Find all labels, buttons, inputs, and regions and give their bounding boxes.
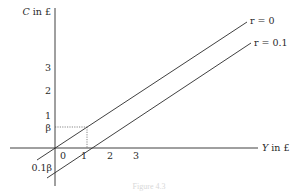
consumption-diagram: C in £ Y in £ 3 2 1 β 0 1 2 3 0.1β r = 0… <box>0 0 298 192</box>
line-r01 <box>47 43 251 178</box>
x-tick-3: 3 <box>133 150 139 161</box>
x-tick-1: 1 <box>81 150 87 161</box>
figure-caption: Figure 4.3 <box>133 182 166 191</box>
line-r0 <box>37 22 247 160</box>
x-tick-0: 0 <box>60 150 66 161</box>
x-tick-2: 2 <box>107 150 113 161</box>
y-tick-2: 2 <box>45 85 51 96</box>
line-r0-label: r = 0 <box>250 15 275 26</box>
beta-label: β <box>46 122 52 133</box>
intercept-label: 0.1β <box>31 162 52 173</box>
x-axis-label: Y in £ <box>262 142 290 153</box>
line-r01-label: r = 0.1 <box>254 37 288 48</box>
y-tick-3: 3 <box>45 62 51 73</box>
y-tick-1: 1 <box>45 110 51 121</box>
y-axis-label: C in £ <box>22 6 51 17</box>
